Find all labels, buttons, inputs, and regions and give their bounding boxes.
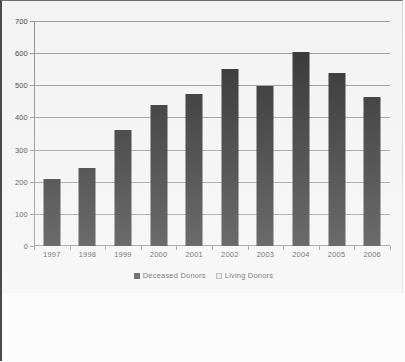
bar (257, 86, 274, 246)
x-axis-tick-label: 2004 (292, 250, 310, 259)
x-axis-tick-label: 2003 (257, 250, 275, 259)
y-axis-tick-label: 0 (24, 242, 28, 251)
x-axis-tick (212, 246, 213, 250)
x-axis-tick (354, 246, 355, 250)
x-axis-tick-label: 1999 (114, 250, 132, 259)
legend-swatch-icon (216, 273, 222, 279)
y-axis-tick-label: 600 (15, 49, 28, 58)
y-axis-tick-label: 700 (15, 17, 28, 26)
bar-group (248, 21, 284, 246)
bar (292, 52, 309, 246)
chart-legend: Deceased DonorsLiving Donors (2, 271, 405, 280)
x-axis-tick-label: 1998 (79, 250, 97, 259)
x-axis-tick (141, 246, 142, 250)
bar-group (105, 21, 141, 246)
x-axis-tick (34, 246, 35, 250)
bar-series-group (34, 21, 390, 246)
bar-group (283, 21, 319, 246)
bar-group (212, 21, 248, 246)
legend-label: Deceased Donors (143, 271, 206, 280)
x-axis-tick-label: 2005 (328, 250, 346, 259)
bar-group (34, 21, 70, 246)
y-axis-tick-label: 300 (15, 145, 28, 154)
bar-group (354, 21, 390, 246)
legend-label: Living Donors (225, 271, 273, 280)
bar-group (176, 21, 212, 246)
x-axis-tick-label: 1997 (43, 250, 61, 259)
x-axis-tick (176, 246, 177, 250)
x-axis-tick-label: 2001 (185, 250, 203, 259)
bar (150, 105, 167, 246)
legend-item[interactable]: Living Donors (216, 271, 273, 280)
page-footer-whitespace (2, 293, 405, 362)
plot-area: 0100200300400500600700 19971998199920002… (34, 21, 390, 246)
x-axis-tick (70, 246, 71, 250)
bar (221, 69, 238, 246)
bar (328, 73, 345, 246)
bar (114, 130, 131, 246)
legend-swatch-icon (134, 273, 140, 279)
x-axis-tick (390, 246, 391, 250)
x-axis-tick-label: 2006 (363, 250, 381, 259)
x-axis-tick (248, 246, 249, 250)
y-axis-tick-label: 100 (15, 209, 28, 218)
x-axis-tick (283, 246, 284, 250)
x-axis-tick-label: 2002 (221, 250, 239, 259)
bar (43, 179, 60, 246)
bar (79, 168, 96, 246)
y-axis-tick-label: 200 (15, 177, 28, 186)
bar (364, 97, 381, 246)
x-axis-tick (105, 246, 106, 250)
x-axis-tick (319, 246, 320, 250)
bar-group (70, 21, 106, 246)
x-axis-tick-label: 2000 (150, 250, 168, 259)
y-axis-tick-label: 500 (15, 81, 28, 90)
bar-group (141, 21, 177, 246)
bar-group (319, 21, 355, 246)
bar-chart: 0100200300400500600700 19971998199920002… (2, 1, 405, 293)
bar (186, 94, 203, 246)
legend-item[interactable]: Deceased Donors (134, 271, 206, 280)
y-axis-tick-label: 400 (15, 113, 28, 122)
